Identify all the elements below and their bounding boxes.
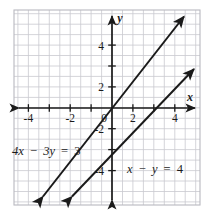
- y-tick-label-4: 4: [98, 40, 104, 52]
- eq2-term1: x: [126, 162, 133, 176]
- y-tick-label-2: 2: [98, 81, 104, 93]
- x-tick-label--4: -4: [24, 112, 34, 124]
- y-tick-label--2: -2: [94, 123, 104, 135]
- y-axis-label: y: [115, 11, 123, 25]
- eq2-operator: −: [139, 162, 146, 176]
- graph-figure: -4 -2 2 4 0 4 2 -2 -4 x y 4x − 3y = 3 x …: [0, 0, 214, 217]
- x-tick-label-4: 4: [172, 112, 178, 124]
- eq1-operator: −: [30, 144, 37, 158]
- x-tick-label--2: -2: [65, 112, 75, 124]
- coordinate-plane-svg: -4 -2 2 4 0 4 2 -2 -4 x y 4x − 3y = 3 x …: [0, 0, 214, 217]
- y-tick-label--4: -4: [94, 165, 104, 177]
- x-axis-label: x: [186, 90, 193, 104]
- eq1-equals: =: [61, 144, 68, 158]
- eq2-equals: =: [164, 162, 171, 176]
- eq2-rhs: 4: [177, 162, 184, 176]
- eq1-rhs: 3: [74, 144, 80, 158]
- eq1-term2: 3y: [42, 144, 55, 158]
- eq2-term2: y: [150, 162, 158, 176]
- x-tick-label-2: 2: [130, 112, 136, 124]
- eq1-term1: 4x: [12, 144, 24, 158]
- equation-label-line-1: 4x − 3y = 3: [12, 144, 81, 158]
